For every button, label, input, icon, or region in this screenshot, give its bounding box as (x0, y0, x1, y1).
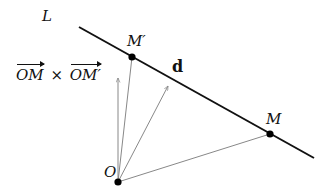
line-l (79, 27, 314, 158)
vector-om-prime (118, 57, 132, 182)
vector-om (118, 134, 270, 182)
cross-operator: × (50, 66, 63, 84)
label-cross-product: OM × OM′ (16, 66, 101, 84)
vector-om-prime-symbol: OM′ (70, 66, 101, 84)
vector-om-symbol: OM (16, 66, 44, 84)
label-m-prime: M′ (127, 32, 146, 50)
label-o: O (104, 163, 116, 181)
vector-d (118, 86, 168, 182)
diagram-canvas (0, 0, 330, 189)
label-line-l: L (42, 7, 52, 25)
point-m-prime (128, 53, 135, 60)
point-m (266, 130, 273, 137)
label-m: M (266, 110, 281, 128)
label-d: d (172, 57, 183, 76)
